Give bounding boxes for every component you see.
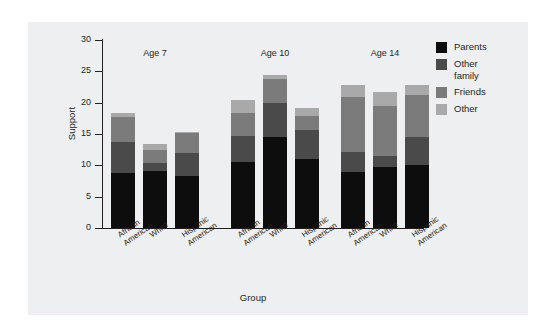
plot-area [103, 40, 403, 228]
bar-stack [373, 92, 397, 228]
bar-segment [405, 85, 429, 95]
y-tick-label: 10 [81, 158, 91, 171]
y-tick: 5 [95, 197, 103, 198]
bar-stack [143, 144, 167, 228]
bar-segment [231, 100, 255, 113]
bar-segment [373, 156, 397, 167]
legend-swatch-icon [436, 87, 447, 98]
bar-segment [373, 92, 397, 106]
bar-stack [111, 113, 135, 228]
y-tick-label: 5 [86, 190, 91, 203]
bar-segment [263, 103, 287, 136]
bar-stack [295, 108, 319, 228]
legend-swatch-icon [436, 42, 447, 53]
bar-stack [175, 132, 199, 228]
bar-segment [295, 159, 319, 228]
bar-segment [111, 117, 135, 142]
legend-item[interactable]: Friends [436, 86, 522, 98]
legend: ParentsOther familyFriendsOther [436, 41, 522, 120]
bar-segment [295, 116, 319, 130]
bar-segment [143, 150, 167, 164]
bar-stack [263, 75, 287, 229]
legend-item[interactable]: Other [436, 103, 522, 115]
y-tick: 10 [95, 165, 103, 166]
legend-item[interactable]: Other family [436, 58, 522, 81]
bar-segment [373, 106, 397, 156]
chart-figure: 051015202530 Support Group Age 7Age 10Ag… [0, 0, 552, 333]
bar-segment [111, 142, 135, 173]
legend-swatch-icon [436, 59, 447, 70]
bar-segment [405, 137, 429, 166]
bar-segment [341, 85, 365, 98]
bar-segment [295, 130, 319, 159]
y-tick: 0 [95, 228, 103, 229]
bar-segment [263, 137, 287, 228]
bar-segment [231, 113, 255, 136]
bar-segment [175, 153, 199, 176]
bar-segment [295, 108, 319, 116]
y-tick-label: 0 [86, 221, 91, 234]
legend-item[interactable]: Parents [436, 41, 522, 53]
bar-segment [341, 152, 365, 172]
bar-stack [405, 85, 429, 228]
bar-stack [341, 85, 365, 228]
bar-segment [143, 163, 167, 171]
bar-stack [231, 100, 255, 228]
legend-label: Friends [454, 86, 486, 98]
y-tick-label: 30 [81, 33, 91, 46]
y-tick-label: 25 [81, 64, 91, 77]
bar-segment [405, 95, 429, 136]
y-axis-title: Support [66, 107, 77, 140]
legend-swatch-icon [436, 104, 447, 115]
y-tick-label: 15 [81, 127, 91, 140]
bar-segment [405, 165, 429, 228]
y-tick: 25 [95, 71, 103, 72]
y-tick: 20 [95, 103, 103, 104]
bar-segment [175, 133, 199, 152]
legend-label: Other family [454, 58, 479, 81]
bar-segment [341, 97, 365, 152]
y-tick: 30 [95, 40, 103, 41]
bar-segment [231, 136, 255, 162]
y-tick: 15 [95, 134, 103, 135]
legend-label: Parents [454, 41, 487, 53]
bar-segment [231, 162, 255, 228]
y-tick-label: 20 [81, 96, 91, 109]
legend-label: Other [454, 103, 478, 115]
bar-segment [263, 79, 287, 103]
x-axis-title: Group [103, 292, 403, 303]
